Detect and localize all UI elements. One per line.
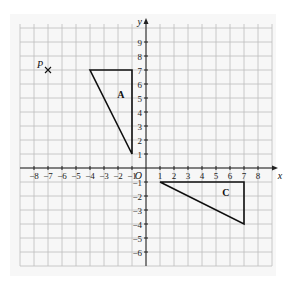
y-tick-label: 7: [138, 66, 143, 76]
x-tick-label: 8: [256, 171, 261, 181]
x-tick-label: −3: [99, 171, 109, 181]
x-tick-label: −5: [71, 171, 81, 181]
y-tick-label: 4: [138, 108, 143, 118]
y-tick-label: 5: [138, 94, 143, 104]
x-tick-label: −7: [43, 171, 53, 181]
y-tick-label: −4: [132, 220, 142, 230]
y-tick-label: 2: [138, 136, 143, 146]
x-tick-label: 1: [158, 171, 163, 181]
x-tick-label: 4: [200, 171, 205, 181]
y-axis-arrow-icon: [144, 18, 149, 24]
x-tick-label: 2: [172, 171, 177, 181]
y-tick-label: −5: [132, 234, 142, 244]
y-tick-label: −6: [132, 248, 142, 258]
x-tick-label: 7: [242, 171, 247, 181]
y-tick-label: 3: [138, 122, 143, 132]
x-tick-label: 3: [186, 171, 191, 181]
x-axis-label: x: [277, 170, 283, 181]
triangle-label-a: A: [117, 89, 125, 100]
coordinate-grid: −8−7−6−5−4−3−2−112345678987654321−1−2−3−…: [0, 0, 284, 281]
y-axis-label: y: [137, 16, 143, 27]
y-tick-label: −3: [132, 206, 142, 216]
point-p-label: P: [36, 59, 43, 70]
x-tick-label: −2: [113, 171, 123, 181]
x-tick-label: −4: [85, 171, 95, 181]
y-tick-label: 8: [138, 52, 143, 62]
y-tick-label: 6: [138, 80, 143, 90]
y-tick-label: 1: [138, 150, 143, 160]
y-tick-label: 9: [138, 38, 143, 48]
x-tick-label: 5: [214, 171, 219, 181]
x-tick-label: 6: [228, 171, 233, 181]
triangle-label-c: C: [222, 187, 229, 198]
origin-label: O: [135, 170, 142, 181]
x-tick-label: −8: [29, 171, 39, 181]
y-tick-label: −2: [132, 192, 142, 202]
x-tick-label: −6: [57, 171, 67, 181]
